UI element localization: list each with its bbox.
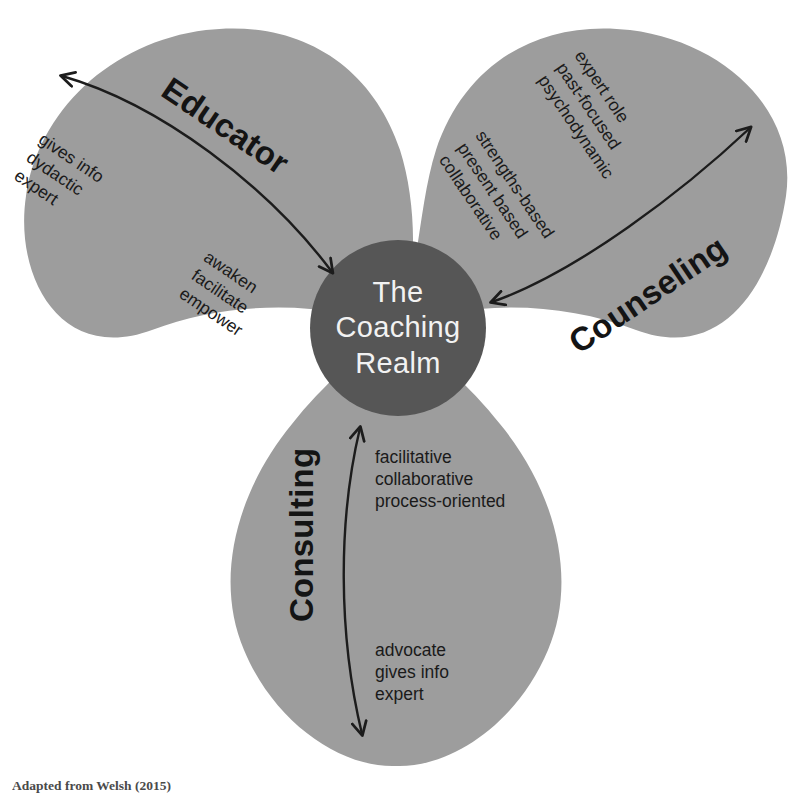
attribute-item: advocate [375, 639, 449, 661]
center-label: The Coaching Realm [310, 240, 486, 416]
attribute-item: process-oriented [375, 490, 505, 512]
consulting-outward-attributes: advocate gives info expert [375, 639, 449, 705]
consulting-inward-attributes: facilitative collaborative process-orien… [375, 446, 505, 512]
figure-caption: Adapted from Welsh (2015) [12, 778, 171, 793]
attribute-item: collaborative [375, 468, 505, 490]
center-label-line: Realm [355, 346, 440, 381]
center-label-line: The [373, 275, 424, 310]
petal-label-consulting: Consulting [283, 448, 322, 622]
coaching-realm-diagram: Educator gives info dydactic expert awak… [0, 0, 792, 793]
attribute-item: facilitative [375, 446, 505, 468]
attribute-item: gives info [375, 661, 449, 683]
center-label-line: Coaching [336, 310, 461, 345]
attribute-item: expert [375, 683, 449, 705]
